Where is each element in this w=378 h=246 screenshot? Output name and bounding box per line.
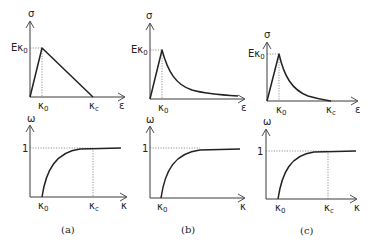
damage-law-figure: σ Eκ0 κ0 κc ε ω 1 κ0 κc κ (a) bbox=[0, 0, 378, 246]
damage-curve bbox=[278, 151, 356, 199]
kappa-label: κ bbox=[121, 200, 127, 211]
caption-b: (b) bbox=[181, 224, 195, 235]
k0-label: κ0 bbox=[157, 201, 167, 214]
kappa-label: κ bbox=[240, 201, 246, 212]
omega-label: ω bbox=[27, 113, 35, 124]
epsilon-label: ε bbox=[119, 100, 124, 111]
one-label: 1 bbox=[257, 146, 263, 157]
kc-label: κc bbox=[324, 202, 334, 215]
k0-label: κ0 bbox=[38, 100, 48, 113]
panel-a-damage: ω 1 κ0 κc κ bbox=[22, 113, 127, 213]
panel-b-stress-strain: σ Eκ0 κ0 ε bbox=[131, 10, 246, 115]
caption-c: (c) bbox=[300, 225, 314, 236]
one-label: 1 bbox=[142, 143, 148, 154]
k0-label: κ0 bbox=[158, 102, 168, 115]
stress-strain-curve bbox=[30, 48, 93, 97]
damage-curve bbox=[42, 148, 121, 197]
k0-label: κ0 bbox=[276, 104, 286, 117]
kc-label: κc bbox=[89, 200, 99, 213]
epsilon-label: ε bbox=[355, 104, 360, 115]
panel-b: σ Eκ0 κ0 ε ω 1 κ0 κ (b) bbox=[131, 10, 246, 235]
kappa-label: κ bbox=[354, 202, 360, 213]
caption-a: (a) bbox=[61, 224, 75, 235]
omega-label: ω bbox=[146, 114, 154, 125]
peak-label: Eκ0 bbox=[11, 42, 28, 55]
sigma-label: σ bbox=[28, 8, 35, 19]
panel-c: σ Eκ0 κ0 κc ε ω 1 κ0 κc κ (c) bbox=[248, 29, 360, 236]
damage-curve bbox=[161, 149, 240, 198]
stress-strain-curve bbox=[150, 50, 238, 99]
peak-label: Eκ0 bbox=[131, 44, 148, 57]
peak-label: Eκ0 bbox=[248, 48, 265, 61]
panel-c-stress-strain: σ Eκ0 κ0 κc ε bbox=[248, 29, 360, 117]
panel-c-damage: ω 1 κ0 κc κ bbox=[257, 116, 360, 215]
k0-label: κ0 bbox=[275, 202, 285, 215]
sigma-label: σ bbox=[146, 10, 153, 21]
kc-label: κc bbox=[326, 104, 336, 117]
k0-label: κ0 bbox=[38, 200, 48, 213]
panel-b-damage: ω 1 κ0 κ bbox=[142, 114, 246, 214]
kc-label: κc bbox=[89, 100, 99, 113]
sigma-label: σ bbox=[264, 29, 271, 40]
epsilon-label: ε bbox=[241, 102, 246, 113]
panel-a: σ Eκ0 κ0 κc ε ω 1 κ0 κc κ (a) bbox=[11, 8, 127, 235]
omega-label: ω bbox=[263, 116, 271, 127]
one-label: 1 bbox=[22, 143, 28, 154]
stress-strain-curve bbox=[267, 54, 331, 101]
panel-a-stress-strain: σ Eκ0 κ0 κc ε bbox=[11, 8, 125, 113]
